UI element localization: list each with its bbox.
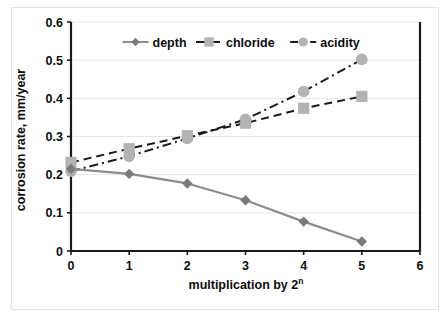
data-point-diamond	[124, 169, 134, 179]
data-point-square	[356, 91, 367, 102]
data-point-diamond	[357, 236, 367, 246]
y-tick-label: 0.6	[46, 16, 63, 30]
y-tick-label: 0.2	[46, 168, 63, 182]
series-line	[71, 59, 362, 171]
chart-figure: 00.10.20.30.40.50.6 0123456 depthchlorid…	[0, 0, 448, 321]
y-tick-label: 0	[56, 245, 63, 259]
data-point-diamond	[182, 178, 192, 188]
legend-label-chloride: chloride	[226, 36, 275, 50]
x-tick-label: 2	[184, 259, 191, 273]
chart-legend: depthchlorideacidity	[123, 36, 360, 50]
x-axis-title-base: multiplication by 2	[189, 278, 299, 292]
data-point-diamond	[298, 216, 308, 226]
y-axis-ticks: 00.10.20.30.40.50.6	[46, 16, 71, 259]
x-tick-label: 3	[242, 259, 249, 273]
x-tick-label: 5	[358, 259, 365, 273]
legend-label-depth: depth	[153, 36, 187, 50]
data-point-circle	[298, 86, 310, 98]
y-axis-title: corrosion rate, mm/year	[14, 69, 28, 212]
x-axis-title: multiplication by 2n	[189, 276, 304, 292]
x-tick-label: 0	[68, 259, 75, 273]
data-point-square	[204, 37, 213, 46]
data-point-circle	[182, 133, 194, 145]
data-point-circle	[240, 114, 252, 126]
data-point-diamond	[240, 195, 250, 205]
corrosion-rate-line-chart: 00.10.20.30.40.50.6 0123456 depthchlorid…	[0, 0, 448, 321]
legend-item-depth[interactable]: depth	[123, 36, 187, 50]
series-chloride	[65, 91, 367, 168]
data-point-circle	[356, 54, 368, 66]
data-point-square	[298, 103, 309, 114]
legend-item-acidity[interactable]: acidity	[290, 36, 360, 50]
series-line	[71, 96, 362, 162]
y-tick-label: 0.5	[46, 54, 63, 68]
y-tick-label: 0.4	[46, 92, 63, 106]
legend-item-chloride[interactable]: chloride	[196, 36, 275, 50]
x-tick-label: 6	[417, 259, 424, 273]
data-series-group	[65, 54, 367, 247]
x-tick-label: 4	[300, 259, 307, 273]
legend-label-acidity: acidity	[320, 36, 360, 50]
data-point-circle	[299, 37, 308, 46]
series-line	[71, 169, 362, 242]
data-point-diamond	[131, 38, 139, 46]
y-tick-label: 0.3	[46, 130, 63, 144]
data-point-circle	[123, 151, 135, 163]
series-depth	[66, 164, 367, 247]
x-axis-ticks: 0123456	[68, 251, 424, 273]
y-tick-label: 0.1	[46, 206, 63, 220]
x-tick-label: 1	[126, 259, 133, 273]
x-axis-title-exponent: n	[298, 276, 303, 286]
series-acidity	[65, 54, 367, 177]
